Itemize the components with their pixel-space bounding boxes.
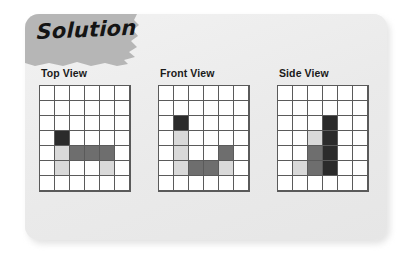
grid-cell [234,101,249,116]
grid-cell [323,86,338,101]
grid-cell [338,146,353,161]
grid-cell [308,101,323,116]
screenshot-root: Solution Top View Front View Side View [0,0,416,264]
grid-cell [40,131,55,146]
panel-label-side-view: Side View [279,67,383,79]
grid-cell [353,176,368,191]
grid-cell [159,146,174,161]
grid-cell [219,101,234,116]
panel-front-view: Front View [158,67,264,192]
grid-cell [338,116,353,131]
grid-cell [293,131,308,146]
grid-cell [85,101,100,116]
page-title: Solution [36,16,136,44]
grid-cell [278,101,293,116]
grid-cell [115,146,130,161]
grid-cell [115,86,130,101]
grid-cell [189,176,204,191]
grid-cell [204,176,219,191]
grid-cell [100,116,115,131]
grid-cell [308,176,323,191]
grid-cell [219,131,234,146]
grid-cell [55,101,70,116]
grid-cell [338,131,353,146]
grid-cell [293,116,308,131]
grid-cell [159,86,174,101]
grid-cell [204,146,219,161]
grid-cell [85,86,100,101]
grid-cell [174,176,189,191]
grid-cell [323,176,338,191]
grid-cell [85,131,100,146]
panel-top-view: Top View [39,67,145,192]
grid-cell [308,116,323,131]
grid-cell [219,161,234,176]
grid-cell [115,176,130,191]
grid-cell [40,176,55,191]
grid-cell [100,176,115,191]
grid-cell [85,116,100,131]
grid-cell [308,131,323,146]
grid-cell [353,86,368,101]
title-tab: Solution [25,14,145,67]
grid-cell [308,161,323,176]
grid-cell [219,176,234,191]
grid-cell [159,116,174,131]
grid-cell [40,86,55,101]
grid-cell [85,146,100,161]
grid-cell [40,161,55,176]
grid-cell [189,146,204,161]
grid-cell [323,131,338,146]
grid-cell [100,101,115,116]
grid-cell [115,131,130,146]
grid-cell [189,131,204,146]
grid-cell [115,161,130,176]
grid-cell [55,86,70,101]
grid-cell [234,86,249,101]
grid-cell [85,176,100,191]
grid-cell [100,146,115,161]
grid-cell [293,146,308,161]
grid-cell [70,131,85,146]
grid-top-view [39,85,131,192]
grid-cell [323,116,338,131]
grid-cell [159,176,174,191]
grid-cell [353,116,368,131]
grid-cell [85,161,100,176]
grid-cell [278,176,293,191]
grid-cell [278,146,293,161]
grid-cell [234,146,249,161]
grid-cell [159,101,174,116]
grid-cell [159,161,174,176]
grid-cell [278,161,293,176]
grid-cell [55,131,70,146]
grid-cell [70,146,85,161]
grid-cell [189,86,204,101]
grid-cell [55,176,70,191]
grid-side-view [277,85,369,192]
grid-cell [174,131,189,146]
grid-cell [189,101,204,116]
grid-cell [278,86,293,101]
grid-cell [204,131,219,146]
panel-label-top-view: Top View [41,67,145,79]
grid-cell [338,86,353,101]
grid-cell [308,146,323,161]
grid-cell [353,101,368,116]
grid-cell [338,161,353,176]
grid-cell [323,101,338,116]
grid-cell [293,161,308,176]
grid-cell [338,101,353,116]
grid-front-view [158,85,250,192]
grid-cell [234,176,249,191]
grid-cell [70,86,85,101]
grid-cell [353,146,368,161]
grid-cell [174,146,189,161]
grid-cell [70,161,85,176]
grid-cell [219,116,234,131]
grid-cell [40,146,55,161]
grid-cell [100,161,115,176]
grid-cell [204,101,219,116]
grid-cell [204,161,219,176]
grid-cell [174,116,189,131]
